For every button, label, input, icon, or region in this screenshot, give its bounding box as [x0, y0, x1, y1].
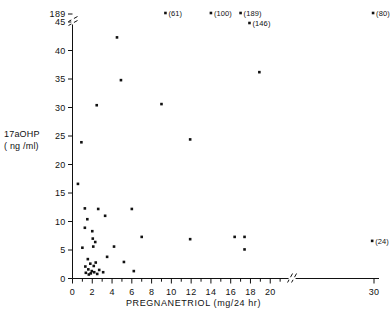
data-point — [92, 245, 95, 248]
data-point-label: (24) — [375, 236, 389, 245]
data-point — [189, 138, 192, 141]
y-tick-label: 189 — [10, 9, 66, 19]
data-point — [96, 273, 99, 276]
y-tick-label: 20 — [10, 160, 66, 170]
data-point-label: (61) — [168, 9, 182, 18]
y-tick-label: 10 — [10, 217, 66, 227]
data-point — [94, 241, 97, 244]
data-point — [243, 248, 246, 251]
offscale-data-point — [239, 12, 242, 15]
data-point — [104, 215, 107, 218]
data-point-label: (146) — [252, 19, 270, 28]
data-point — [90, 270, 93, 273]
y-tick-label: 25 — [10, 131, 66, 141]
y-tick-label: 15 — [10, 188, 66, 198]
data-point — [160, 103, 163, 106]
y-tick-label: 5 — [10, 245, 66, 255]
data-point — [87, 268, 90, 271]
data-point — [92, 265, 95, 268]
data-point — [113, 245, 116, 248]
y-tick-label: 30 — [10, 103, 66, 113]
data-point — [133, 270, 136, 273]
y-tick-label: 35 — [10, 74, 66, 84]
data-point — [189, 238, 192, 241]
data-point — [243, 236, 246, 239]
x-tick-label: 20 — [255, 287, 285, 297]
y-tick-label: 40 — [10, 46, 66, 56]
axes-group — [68, 14, 379, 284]
offscale-data-point — [248, 22, 251, 25]
data-point — [97, 208, 100, 211]
data-point — [98, 269, 101, 272]
data-point — [102, 271, 105, 274]
y-tick-label: 0 — [10, 274, 66, 284]
data-point — [84, 265, 87, 268]
data-point — [84, 226, 87, 229]
data-point — [123, 261, 126, 264]
offscale-data-point — [372, 12, 375, 15]
offscale-data-point — [164, 12, 167, 15]
data-point — [77, 183, 80, 186]
data-point — [94, 261, 97, 264]
x-axis-break-gap — [289, 277, 296, 280]
y-axis-break-gap — [71, 18, 74, 25]
data-point — [80, 141, 83, 144]
data-point — [140, 236, 143, 239]
data-point — [81, 246, 84, 249]
data-point-label: (189) — [244, 9, 262, 18]
offscale-data-point — [210, 12, 213, 15]
data-point — [233, 236, 236, 239]
data-point — [89, 262, 92, 265]
data-point — [106, 256, 109, 259]
data-point — [116, 36, 119, 39]
data-point — [86, 218, 89, 221]
x-axis-label-text: PREGNANETRIOL (mg/24 hr) — [126, 298, 261, 308]
data-point — [120, 79, 123, 82]
data-point — [371, 240, 374, 243]
data-point-label: (100) — [214, 9, 232, 18]
data-point-label: (80) — [376, 9, 390, 18]
data-point — [95, 104, 98, 107]
data-point — [87, 258, 90, 261]
data-point — [91, 230, 94, 233]
data-point — [85, 272, 88, 275]
data-point — [89, 272, 92, 275]
data-point — [258, 71, 261, 74]
data-points-group — [77, 12, 375, 276]
data-point — [84, 207, 87, 210]
data-point — [91, 237, 94, 240]
data-point — [93, 271, 96, 274]
data-point — [131, 208, 134, 211]
y-axis-label-line2: ( ng /ml) — [4, 140, 66, 152]
x-tick-label: 30 — [359, 287, 389, 297]
